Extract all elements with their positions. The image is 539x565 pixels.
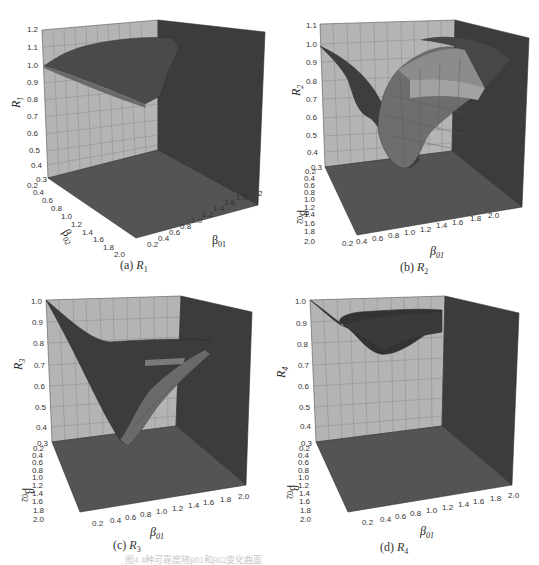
svg-text:1.2: 1.2: [27, 25, 39, 34]
svg-text:0.9: 0.9: [296, 319, 308, 328]
svg-text:1.8: 1.8: [220, 495, 232, 504]
svg-text:1.4: 1.4: [82, 228, 94, 237]
svg-text:2.0: 2.0: [488, 211, 500, 220]
svg-text:1.8: 1.8: [300, 506, 312, 515]
svg-text:2.0: 2.0: [508, 491, 520, 500]
surface-plot-r1: 1.2 1.1 1.0 0.9 0.8 0.7 0.6 0.5 0.4 0.3 …: [0, 0, 270, 280]
svg-text:0.8: 0.8: [33, 339, 45, 348]
svg-text:1.0: 1.0: [27, 61, 39, 70]
svg-text:1.2: 1.2: [420, 225, 432, 234]
svg-text:1.8: 1.8: [33, 506, 45, 515]
y-axis-label: β02: [58, 227, 79, 247]
svg-text:1.8: 1.8: [304, 227, 316, 236]
svg-text:0.6: 0.6: [34, 382, 46, 391]
svg-text:0.6: 0.6: [298, 382, 310, 391]
svg-text:1.0: 1.0: [156, 507, 168, 516]
panel-d: 1.0 0.9 0.8 0.7 0.6 0.5 0.4 0.3 R4 0.2 0…: [270, 280, 539, 565]
svg-text:0.2: 0.2: [362, 518, 374, 527]
svg-text:1.1: 1.1: [27, 43, 39, 52]
x-axis-label: β01: [212, 233, 226, 249]
svg-text:1.4: 1.4: [213, 204, 225, 213]
svg-text:0.7: 0.7: [306, 95, 318, 104]
svg-text:1.4: 1.4: [458, 500, 470, 509]
svg-text:0.6: 0.6: [27, 129, 39, 138]
svg-text:0.6: 0.6: [306, 113, 318, 122]
svg-text:1.0: 1.0: [426, 506, 438, 515]
svg-text:1.6: 1.6: [224, 198, 236, 207]
svg-text:0.2: 0.2: [147, 240, 159, 249]
x-axis-label: β01: [419, 524, 434, 540]
svg-text:2.0: 2.0: [304, 237, 316, 246]
svg-text:1.4: 1.4: [436, 221, 448, 230]
svg-text:0.6: 0.6: [169, 228, 181, 237]
svg-text:0.5: 0.5: [306, 131, 318, 140]
svg-text:0.7: 0.7: [298, 361, 310, 370]
x-axis-label: β01: [429, 244, 444, 260]
svg-text:0.8: 0.8: [27, 95, 39, 104]
svg-text:0.5: 0.5: [35, 403, 47, 412]
svg-text:0.5: 0.5: [299, 403, 311, 412]
z-axis-label: R3: [11, 359, 27, 371]
svg-text:1.0: 1.0: [191, 216, 203, 225]
panel-b: 1.1 1.0 0.9 0.8 0.7 0.6 0.5 0.4 0.3 R2 0…: [270, 0, 539, 280]
svg-text:0.4: 0.4: [307, 148, 319, 157]
panel-c: 1.0 0.9 0.8 0.7 0.6 0.5 0.4 0.3 R3 0.2 0…: [0, 280, 270, 565]
svg-text:1.0: 1.0: [306, 40, 318, 49]
svg-text:0.4: 0.4: [158, 234, 170, 243]
y-axis-ticks: 0.2 0.4 0.6 0.8 1.0 1.2 1.4 1.6 1.8 2.0: [32, 444, 45, 524]
svg-text:0.4: 0.4: [300, 422, 312, 431]
svg-text:1.4: 1.4: [188, 501, 200, 510]
svg-text:0.4: 0.4: [356, 237, 368, 246]
surface-plot-r3: 1.0 0.9 0.8 0.7 0.6 0.5 0.4 0.3 R3 0.2 0…: [0, 280, 270, 565]
svg-text:1.8: 1.8: [236, 193, 248, 202]
panel-caption-d: (d) R4: [380, 540, 408, 556]
svg-text:0.8: 0.8: [306, 77, 318, 86]
svg-text:0.8: 0.8: [297, 340, 309, 349]
svg-text:0.7: 0.7: [34, 361, 46, 370]
z-axis-label: R1: [9, 97, 25, 109]
svg-text:2.0: 2.0: [238, 492, 250, 501]
svg-text:0.8: 0.8: [180, 222, 192, 231]
svg-text:1.6: 1.6: [473, 497, 485, 506]
svg-text:1.6: 1.6: [452, 218, 464, 227]
svg-text:0.6: 0.6: [372, 234, 384, 243]
svg-text:0.6: 0.6: [125, 513, 137, 522]
svg-text:0.9: 0.9: [27, 78, 39, 87]
svg-text:1.6: 1.6: [299, 497, 311, 506]
z-axis-ticks: 1.0 0.9 0.8 0.7 0.6 0.5 0.4 0.3: [295, 297, 313, 448]
svg-text:0.6: 0.6: [395, 512, 407, 521]
svg-text:1.2: 1.2: [172, 504, 184, 513]
panel-caption-b: (b) R2: [400, 260, 428, 276]
z-axis-label: R2: [289, 85, 305, 97]
surface-plot-r2: 1.1 1.0 0.9 0.8 0.7 0.6 0.5 0.4 0.3 R2 0…: [270, 0, 539, 280]
svg-text:1.2: 1.2: [442, 503, 454, 512]
panel-caption-c: (c) R3: [113, 538, 141, 554]
svg-text:0.4: 0.4: [36, 423, 48, 432]
panel-caption-a: (a) R1: [120, 258, 148, 274]
svg-text:1.0: 1.0: [404, 228, 416, 237]
svg-text:2: 2: [258, 189, 263, 198]
svg-text:1.0: 1.0: [295, 297, 307, 306]
y-axis-ticks: 0.2 0.4 0.6 0.8 1.0 1.2 1.4 1.6 1.8 2.0: [298, 444, 312, 524]
figure-caption: 图4 4种可靠度随β01和β02变化曲面: [125, 553, 262, 565]
z-axis-ticks: 1.1 1.0 0.9 0.8 0.7 0.6 0.5 0.4 0.3: [306, 21, 323, 172]
panel-a: 1.2 1.1 1.0 0.9 0.8 0.7 0.6 0.5 0.4 0.3 …: [0, 0, 270, 280]
svg-text:0.8: 0.8: [388, 231, 400, 240]
svg-text:0.2: 0.2: [92, 519, 104, 528]
svg-text:1.6: 1.6: [203, 498, 215, 507]
svg-text:1.8: 1.8: [490, 494, 502, 503]
svg-text:0.2: 0.2: [342, 239, 354, 248]
svg-text:0.5: 0.5: [29, 146, 41, 155]
svg-text:1.8: 1.8: [470, 214, 482, 223]
z-axis-ticks: 1.0 0.9 0.8 0.7 0.6 0.5 0.4 0.3: [31, 297, 49, 448]
svg-text:0.8: 0.8: [410, 509, 422, 518]
svg-text:1.6: 1.6: [32, 497, 44, 506]
svg-text:0.9: 0.9: [32, 318, 44, 327]
surface-plot-r4: 1.0 0.9 0.8 0.7 0.6 0.5 0.4 0.3 R4 0.2 0…: [270, 280, 539, 565]
svg-text:0.4: 0.4: [380, 515, 392, 524]
z-axis-label: R4: [274, 367, 290, 379]
svg-text:1.2: 1.2: [202, 210, 214, 219]
svg-text:1.0: 1.0: [31, 297, 43, 306]
svg-text:1.8: 1.8: [103, 243, 115, 252]
y-axis-ticks: 0.2 0.4 0.6 0.8 1.0 1.2 1.4 1.6 1.8 2.0: [304, 167, 317, 246]
